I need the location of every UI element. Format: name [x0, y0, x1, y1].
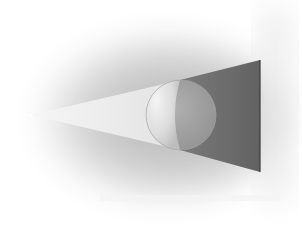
- light-source: [29, 113, 32, 116]
- shadow-diagram: [0, 0, 302, 229]
- sphere: [146, 80, 216, 150]
- diagram-canvas: [0, 0, 302, 229]
